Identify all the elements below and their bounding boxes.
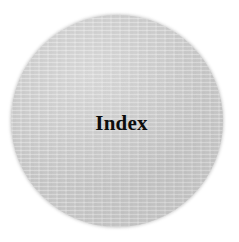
index-label: Index [0, 110, 239, 136]
page-canvas: Index [0, 0, 239, 242]
